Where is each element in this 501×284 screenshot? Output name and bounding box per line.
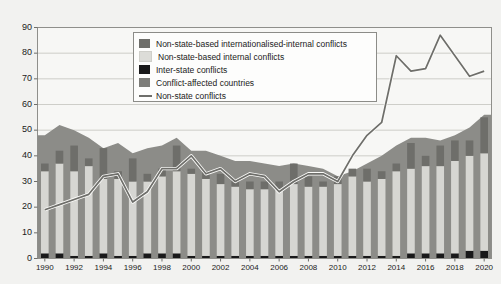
bar-segment-non-state-internationalised bbox=[436, 146, 444, 167]
legend-label: Non-state-based internationalised-intern… bbox=[156, 39, 347, 49]
chart-legend: Non-state-based internationalised-intern… bbox=[133, 32, 377, 102]
bar-segment-non-state-internal bbox=[217, 184, 225, 256]
bar-segment-non-state-internal bbox=[407, 169, 415, 254]
bar-segment-non-state-internationalised bbox=[129, 158, 137, 181]
legend-item: Non-state-based internal conflicts bbox=[139, 50, 371, 63]
bar-segment-non-state-internationalised bbox=[261, 182, 269, 190]
bar-segment-non-state-internal bbox=[85, 166, 93, 256]
y-axis-tick-label: 50 bbox=[2, 124, 32, 134]
legend-item: Non-state conflicts bbox=[139, 89, 371, 102]
legend-swatch-icon bbox=[139, 39, 150, 48]
bar-segment-non-state-internal bbox=[466, 156, 474, 251]
bar-segment-non-state-internal bbox=[363, 182, 371, 256]
bar-segment-non-state-internal bbox=[231, 187, 239, 256]
legend-label: Non-state conflicts bbox=[156, 91, 226, 101]
bar-segment-non-state-internal bbox=[56, 164, 64, 254]
bar-segment-non-state-internal bbox=[436, 166, 444, 253]
bar-segment-non-state-internationalised bbox=[246, 182, 254, 190]
bar-segment-inter-state bbox=[144, 253, 152, 258]
bar-segment-non-state-internationalised bbox=[378, 171, 386, 179]
bar-segment-non-state-internationalised bbox=[407, 143, 415, 169]
bar-segment-non-state-internal bbox=[305, 187, 313, 256]
bar-segment-non-state-internal bbox=[246, 189, 254, 256]
bar-segment-non-state-internationalised bbox=[217, 174, 225, 184]
bar-segment-non-state-internationalised bbox=[85, 158, 93, 166]
legend-item: Conflict-affected countries bbox=[139, 76, 371, 89]
bar-segment-non-state-internal bbox=[290, 184, 298, 256]
y-axis-tick-label: 60 bbox=[2, 99, 32, 109]
bar-segment-inter-state bbox=[407, 253, 415, 258]
y-axis-tick-label: 80 bbox=[2, 47, 32, 57]
x-axis-tick-label: 2020 bbox=[467, 263, 501, 272]
bar-segment-inter-state bbox=[173, 253, 181, 258]
y-axis-tick-label: 0 bbox=[2, 253, 32, 263]
bar-segment-non-state-internal bbox=[451, 161, 459, 253]
bar-segment-non-state-internal bbox=[70, 171, 78, 256]
bar-segment-non-state-internal bbox=[173, 171, 181, 253]
bar-segment-inter-state bbox=[466, 251, 474, 259]
bar-segment-non-state-internationalised bbox=[451, 140, 459, 161]
legend-swatch-icon bbox=[139, 78, 150, 87]
bar-segment-non-state-internal bbox=[41, 171, 49, 253]
legend-label: Conflict-affected countries bbox=[156, 78, 254, 88]
bar-segment-inter-state bbox=[422, 253, 430, 258]
bar-segment-non-state-internationalised bbox=[305, 176, 313, 186]
y-axis-tick-label: 70 bbox=[2, 73, 32, 83]
bar-segment-inter-state bbox=[451, 253, 459, 258]
bar-segment-non-state-internationalised bbox=[466, 140, 474, 155]
bar-segment-non-state-internationalised bbox=[56, 151, 64, 164]
bar-segment-non-state-internal bbox=[129, 182, 137, 256]
bar-segment-non-state-internal bbox=[187, 174, 195, 256]
bar-segment-non-state-internal bbox=[334, 184, 342, 256]
y-axis-tick-label: 30 bbox=[2, 176, 32, 186]
bar-segment-non-state-internal bbox=[100, 179, 108, 253]
bar-segment-non-state-internal bbox=[114, 179, 122, 256]
bar-segment-non-state-internationalised bbox=[41, 164, 49, 172]
bar-segment-non-state-internal bbox=[393, 171, 401, 256]
bar-segment-non-state-internationalised bbox=[422, 156, 430, 166]
bar-segment-inter-state bbox=[56, 253, 64, 258]
legend-item: Non-state-based internationalised-intern… bbox=[139, 37, 371, 50]
legend-item: Inter-state conflicts bbox=[139, 63, 371, 76]
legend-swatch-icon bbox=[139, 65, 150, 74]
bar-segment-non-state-internationalised bbox=[393, 164, 401, 172]
bar-segment-non-state-internationalised bbox=[319, 182, 327, 187]
bar-segment-non-state-internationalised bbox=[187, 169, 195, 174]
bar-segment-non-state-internal bbox=[480, 153, 488, 251]
bar-segment-non-state-internal bbox=[261, 189, 269, 256]
legend-line-icon bbox=[139, 95, 152, 97]
bar-segment-inter-state bbox=[436, 253, 444, 258]
bar-segment-non-state-internal bbox=[275, 189, 283, 256]
conflict-trends-chart: 9080706050403020100 19901992199419961998… bbox=[0, 0, 501, 284]
legend-label: Non-state-based internal conflicts bbox=[158, 52, 284, 62]
bar-segment-inter-state bbox=[158, 253, 166, 258]
bar-segment-non-state-internal bbox=[422, 166, 430, 253]
bar-segment-non-state-internationalised bbox=[349, 169, 357, 177]
bar-segment-non-state-internationalised bbox=[144, 174, 152, 182]
y-axis-tick-label: 40 bbox=[2, 150, 32, 160]
bar-segment-inter-state bbox=[41, 253, 49, 258]
bar-segment-inter-state bbox=[100, 253, 108, 258]
bar-segment-non-state-internal bbox=[202, 179, 210, 256]
bar-segment-non-state-internationalised bbox=[480, 117, 488, 153]
bar-segment-non-state-internal bbox=[319, 187, 327, 256]
legend-swatch-icon bbox=[139, 51, 152, 62]
y-axis-tick-label: 20 bbox=[2, 201, 32, 211]
y-axis-tick-label: 10 bbox=[2, 227, 32, 237]
bar-segment-non-state-internal bbox=[378, 179, 386, 256]
bar-segment-non-state-internal bbox=[158, 176, 166, 253]
bar-segment-non-state-internationalised bbox=[70, 146, 78, 172]
bar-segment-non-state-internationalised bbox=[363, 169, 371, 182]
bar-segment-inter-state bbox=[480, 251, 488, 259]
legend-label: Inter-state conflicts bbox=[156, 65, 227, 75]
y-axis-tick-label: 90 bbox=[2, 22, 32, 32]
bar-segment-non-state-internal bbox=[349, 176, 357, 256]
